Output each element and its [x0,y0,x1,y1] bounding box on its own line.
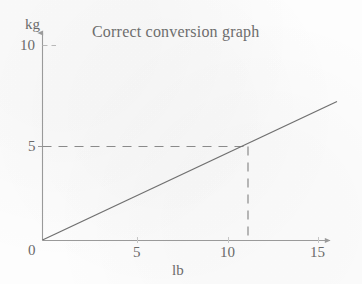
x-axis-label: lb [172,263,184,278]
x-tick-label-10: 10 [220,245,235,260]
y-tick-label-10: 10 [20,38,35,53]
x-tick-label-5: 5 [133,245,141,260]
chart-title: Correct conversion graph [92,24,259,40]
y-tick-label-0: 0 [28,243,36,258]
x-tick-label-15: 15 [310,245,325,260]
conversion-graph-plot-area [0,0,362,284]
y-tick-label-5: 5 [28,139,36,154]
conversion-graph-figure: Correct conversion graph kg 10 5 0 5 10 … [0,0,362,284]
y-axis-label: kg [25,17,40,32]
conversion-line-series [43,102,338,241]
